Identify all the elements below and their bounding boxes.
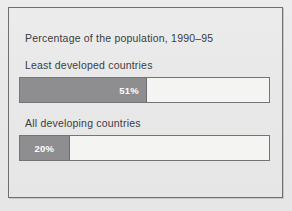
bar-value-all-developing-countries: 20% [35,143,55,154]
bar-fill-least-developed-countries: 51% [20,78,147,102]
bar-track-least-developed-countries: 51% [19,77,270,103]
bar-label-least-developed-countries: Least developed countries [25,59,153,71]
bar-fill-all-developing-countries: 20% [20,136,70,160]
chart-title: Percentage of the population, 1990–95 [25,32,213,44]
bar-value-least-developed-countries: 51% [119,85,146,96]
bar-label-all-developing-countries: All developing countries [25,117,141,129]
bar-track-all-developing-countries: 20% [19,135,270,161]
chart-screenshot: Percentage of the population, 1990–95 Le… [0,0,292,211]
